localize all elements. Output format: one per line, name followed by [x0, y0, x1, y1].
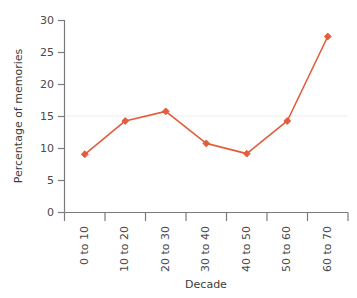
- x-tick-label: 60 to 70: [321, 226, 334, 272]
- x-axis-title: Decade: [185, 278, 227, 291]
- y-tick-label: 0: [47, 206, 54, 219]
- y-tick-label: 20: [40, 78, 54, 91]
- y-axis-title: Percentage of memories: [12, 48, 25, 183]
- y-tick-label: 30: [40, 14, 54, 27]
- series-line: [85, 37, 328, 155]
- y-tick-label: 15: [40, 110, 54, 123]
- y-tick-label: 10: [40, 142, 54, 155]
- y-tick-label: 5: [47, 174, 54, 187]
- x-tick-label: 10 to 20: [118, 226, 131, 272]
- data-point-marker[interactable]: [324, 33, 331, 40]
- y-axis-ticks: [58, 21, 65, 213]
- x-tick-label: 20 to 30: [159, 226, 172, 272]
- x-tick-label: 50 to 60: [280, 226, 293, 272]
- data-series-layer: [81, 33, 331, 158]
- y-axis-tick-labels: 30 25 20 15 10 5 0: [40, 14, 54, 219]
- chart-canvas: 30 25 20 15 10 5 0 Percentage of memorie…: [0, 0, 357, 298]
- x-tick-label: 40 to 50: [240, 226, 253, 272]
- x-tick-label: 30 to 40: [199, 226, 212, 272]
- x-axis-tick-labels: 0 to 10 10 to 20 20 to 30 30 to 40 40 to…: [78, 226, 334, 272]
- y-tick-label: 25: [40, 46, 54, 59]
- x-tick-label: 0 to 10: [78, 226, 91, 265]
- x-axis-ticks: [65, 213, 349, 222]
- line-chart: 30 25 20 15 10 5 0 Percentage of memorie…: [0, 0, 357, 298]
